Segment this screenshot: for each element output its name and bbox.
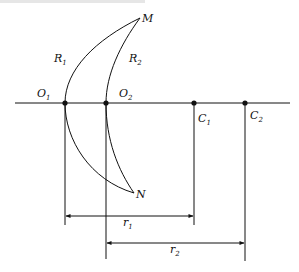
label-o2: O2 [119, 87, 133, 102]
label-c2: C2 [250, 109, 263, 124]
label-r1: R1 [53, 52, 67, 67]
point-c2 [242, 100, 247, 105]
point-o1 [62, 100, 67, 105]
point-o2 [103, 100, 108, 105]
point-c1 [191, 100, 196, 105]
label-r1-small: r1 [123, 216, 133, 231]
label-r2: R2 [128, 52, 142, 67]
surface-r2-arc [106, 18, 140, 193]
label-c1: C1 [198, 112, 211, 127]
label-n: N [135, 188, 146, 201]
surface-r1-arc [65, 18, 140, 193]
label-r2-small: r2 [170, 243, 180, 258]
label-m: M [141, 12, 154, 25]
label-o1: O1 [37, 87, 51, 102]
lens-diagram: M N R1 R2 O1 O2 C1 C2 r1 r2 [0, 0, 299, 272]
